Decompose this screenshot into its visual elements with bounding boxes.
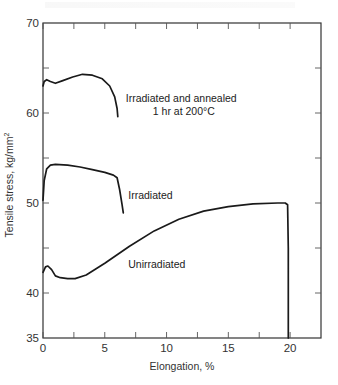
annotation-unirradiated: Unirradiated	[128, 258, 185, 270]
y-tick-label: 50	[26, 197, 39, 209]
x-tick-label: 5	[102, 342, 108, 354]
x-tick-label: 15	[222, 342, 235, 354]
curve-unirradiated	[43, 203, 288, 338]
y-tick-label: 70	[26, 17, 39, 29]
axes: 051015203540506070	[26, 17, 321, 354]
annotation-annealed-line2: 1 hr at 200°C	[153, 105, 215, 117]
tensile-stress-chart: 051015203540506070 Irradiated and anneal…	[0, 0, 338, 385]
y-tick-label: 60	[26, 107, 39, 119]
x-axis-label: Elongation, %	[150, 360, 215, 372]
x-tick-label: 0	[40, 342, 46, 354]
curve-irradiated-annealed	[43, 74, 118, 116]
annotation-annealed-line1: Irradiated and annealed	[126, 92, 237, 104]
curve-irradiated	[43, 164, 123, 213]
x-tick-label: 20	[284, 342, 297, 354]
annotation-irradiated: Irradiated	[128, 189, 173, 201]
chart-canvas: 051015203540506070 Irradiated and anneal…	[0, 0, 338, 385]
chart-labels: Irradiated and annealed 1 hr at 200°C Ir…	[3, 92, 237, 372]
y-axis-label: Tensile stress, kg/mm2	[3, 132, 15, 237]
plot-frame	[43, 23, 321, 338]
x-tick-label: 10	[160, 342, 173, 354]
y-tick-label: 35	[26, 332, 39, 344]
y-tick-label: 40	[26, 287, 39, 299]
